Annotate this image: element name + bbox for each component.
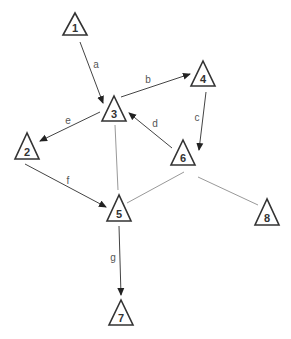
edge-3-5 [115, 125, 118, 190]
graph-canvas: a b c d e f g 1 [0, 0, 291, 339]
node-6: 6 [171, 140, 195, 165]
graph-svg: a b c d e f g 1 [0, 0, 291, 339]
edge-label-g: g [110, 252, 116, 263]
edge-f: f [25, 164, 106, 207]
edge-d: d [129, 113, 172, 148]
edge-a: a [80, 42, 103, 103]
edge-g: g [110, 226, 121, 295]
node-7: 7 [109, 300, 133, 325]
edge-c: c [195, 92, 207, 150]
edge-label-e: e [65, 115, 71, 126]
node-3: 3 [102, 96, 126, 121]
node-label-2: 2 [24, 146, 30, 158]
node-label-8: 8 [264, 212, 270, 224]
node-4: 4 [191, 61, 215, 86]
node-label-6: 6 [180, 152, 186, 164]
node-1: 1 [63, 13, 87, 35]
edge-label-c: c [195, 112, 200, 123]
node-label-3: 3 [111, 108, 117, 120]
node-label-1: 1 [72, 22, 78, 34]
edge-6-8 [198, 177, 258, 205]
node-label-5: 5 [116, 208, 122, 220]
node-5: 5 [107, 195, 131, 221]
edge-e: e [40, 112, 100, 141]
edge-5-6 [127, 172, 184, 203]
node-label-4: 4 [200, 73, 207, 85]
node-2: 2 [15, 133, 39, 159]
node-8: 8 [255, 199, 279, 225]
edge-label-a: a [93, 59, 99, 70]
edge-label-b: b [145, 74, 151, 85]
node-label-7: 7 [118, 312, 124, 324]
edge-label-d: d [152, 118, 158, 129]
edge-label-f: f [67, 175, 70, 186]
edge-b: b [121, 74, 190, 97]
